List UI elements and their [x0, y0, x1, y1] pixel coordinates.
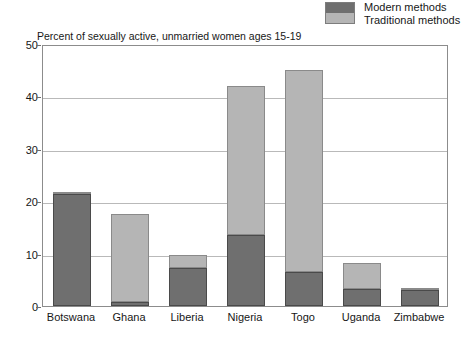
bar-zimbabwe[interactable] — [401, 44, 439, 306]
bar-segment-modern — [53, 194, 91, 306]
legend-item-traditional-methods: Traditional methods — [364, 14, 460, 27]
bar-botswana[interactable] — [53, 44, 91, 306]
bar-segment-traditional — [169, 255, 207, 269]
legend-item-modern-methods: Modern methods — [364, 1, 460, 14]
x-axis-tick-label-botswana: Botswana — [47, 311, 95, 323]
y-axis-tick-mark — [36, 97, 41, 98]
bar-nigeria[interactable] — [227, 44, 265, 306]
y-axis-tick-mark — [36, 307, 41, 308]
legend-swatch-modern — [326, 3, 354, 13]
x-axis-tick-label-uganda: Uganda — [342, 311, 381, 323]
y-axis-tick-mark — [36, 255, 41, 256]
bar-segment-modern — [111, 302, 149, 306]
y-axis-tick-marks — [0, 45, 48, 307]
bar-liberia[interactable] — [169, 44, 207, 306]
bar-segment-modern — [285, 272, 323, 306]
x-axis-tick-label-togo: Togo — [291, 311, 315, 323]
bar-segment-modern — [227, 235, 265, 306]
bar-segment-traditional — [401, 288, 439, 290]
x-axis: BotswanaGhanaLiberiaNigeriaTogoUgandaZim… — [42, 309, 448, 329]
legend-label-list: Modern methods Traditional methods — [364, 1, 460, 26]
bar-segment-modern — [401, 290, 439, 306]
stacked-bar-chart: Modern methods Traditional methods Perce… — [0, 0, 469, 354]
x-axis-tick-label-ghana: Ghana — [112, 311, 145, 323]
x-axis-tick-label-zimbabwe: Zimbabwe — [394, 311, 445, 323]
bar-uganda[interactable] — [343, 44, 381, 306]
bar-segment-traditional — [227, 86, 265, 235]
y-axis-tick-mark — [36, 150, 41, 151]
bar-togo[interactable] — [285, 44, 323, 306]
y-axis-tick-mark — [36, 202, 41, 203]
legend-color-swatch — [325, 2, 355, 24]
bar-segment-traditional — [111, 214, 149, 302]
chart-legend: Modern methods Traditional methods — [325, 1, 460, 26]
bar-segment-traditional — [285, 70, 323, 272]
plot-area — [42, 45, 448, 307]
bar-segment-modern — [169, 268, 207, 306]
bar-segment-traditional — [343, 263, 381, 289]
bar-segment-modern — [343, 289, 381, 306]
y-axis-tick-mark — [36, 45, 41, 46]
x-axis-tick-label-liberia: Liberia — [170, 311, 203, 323]
plot-subtitle: Percent of sexually active, unmarried wo… — [37, 30, 301, 42]
legend-swatch-traditional — [326, 13, 354, 23]
bar-segment-traditional — [53, 192, 91, 194]
x-axis-tick-label-nigeria: Nigeria — [228, 311, 263, 323]
bar-ghana[interactable] — [111, 44, 149, 306]
